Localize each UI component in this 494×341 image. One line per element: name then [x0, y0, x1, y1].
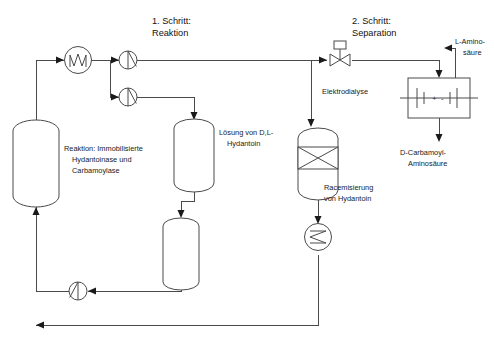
- pipe-reactor-to-exchanger: [36, 60, 64, 120]
- electrode-positive-symbol: +: [432, 94, 437, 103]
- step-1-heading-line1: 1. Schritt:: [152, 16, 191, 26]
- arrowhead-into-pump-middle: [111, 94, 119, 101]
- arrowhead-into-electrodialysis: [436, 70, 443, 78]
- racemization-label-line1: Racemisierung: [324, 183, 373, 192]
- heat-exchanger-feed[interactable]: [65, 47, 92, 74]
- step-2-heading-line2: Separation: [352, 28, 396, 38]
- arrowhead-into-pump-top: [111, 57, 119, 64]
- valve-actuator: [334, 41, 346, 49]
- electrode-negative-symbol: -: [441, 94, 444, 103]
- pump-middle[interactable]: [119, 88, 137, 106]
- arrowhead-into-reactor-bottom: [33, 207, 40, 215]
- reactor-label: Reaktion: Immobilisierte Hydantoinase un…: [64, 144, 143, 175]
- arrowhead-out-l-amino-acid: [444, 45, 452, 52]
- solution-tank-label-line2: Hydantoin: [227, 139, 260, 148]
- reactor-vessel[interactable]: [13, 120, 59, 207]
- pipe-branch-to-pump-middle: [110, 60, 119, 97]
- arrowhead-into-exchanger: [56, 57, 64, 64]
- valve-body-left: [330, 54, 340, 66]
- pipe-pump-middle-to-solution-tank: [137, 97, 194, 118]
- arrowhead-into-holding-tank: [178, 210, 185, 218]
- electrodialysis-cell[interactable]: + -: [400, 78, 478, 118]
- arrowhead-into-recycle-pump: [88, 288, 96, 295]
- cooler[interactable]: [305, 224, 332, 251]
- electrodialysis-label: Elektrodialyse: [322, 87, 368, 96]
- holding-tank[interactable]: [163, 218, 199, 290]
- flow-canvas: + - 1. Schritt: Reaktion 2. Schritt: Sep…: [0, 0, 494, 341]
- arrowhead-out-d-carbamoyl: [436, 134, 443, 142]
- pump-recycle[interactable]: [69, 282, 87, 300]
- d-carbamoyl-label: D-Carbamoyl- Aminosäure: [400, 148, 447, 168]
- solution-tank-label: Lösung von D,L- Hydantoin: [219, 128, 274, 148]
- solution-tank-body: [174, 119, 214, 192]
- d-carbamoyl-label-line1: D-Carbamoyl-: [400, 148, 447, 157]
- valve-body-right: [340, 54, 350, 66]
- process-flow-diagram: + - 1. Schritt: Reaktion 2. Schritt: Sep…: [0, 0, 494, 341]
- flow-arrowheads: [33, 45, 453, 329]
- solution-tank-label-line1: Lösung von D,L-: [219, 128, 274, 137]
- pipe-holding-tank-to-recycle-pump: [88, 290, 181, 291]
- pipe-valve-to-electrodialysis: [352, 60, 439, 76]
- step-2-heading: 2. Schritt: Separation: [352, 16, 396, 38]
- pipe-recycle-pump-to-reactor: [36, 207, 69, 291]
- l-amino-acid-label-line2: säure: [463, 48, 482, 57]
- reactor-label-line2: Hydantoinase und: [72, 155, 132, 164]
- pump-top[interactable]: [119, 51, 137, 69]
- l-amino-acid-label-line1: L-Amino-: [455, 37, 486, 46]
- reactor-vessel-body: [13, 120, 59, 207]
- step-1-heading: 1. Schritt: Reaktion: [152, 16, 191, 38]
- arrowhead-into-valve: [319, 57, 327, 64]
- l-amino-acid-label: L-Amino- säure: [455, 37, 486, 57]
- holding-tank-body: [163, 218, 199, 290]
- arrowhead-into-cooler: [315, 216, 322, 224]
- step-1-heading-line2: Reaktion: [152, 28, 188, 38]
- piping-network: [36, 48, 455, 325]
- solution-tank[interactable]: [174, 119, 214, 192]
- control-valve[interactable]: [330, 41, 350, 66]
- reactor-label-line1: Reaktion: Immobilisierte: [64, 144, 143, 153]
- arrowhead-return-left: [36, 322, 44, 329]
- arrowhead-into-racemization-column: [308, 119, 315, 127]
- racemization-label-line2: von Hydantoin: [324, 194, 371, 203]
- heat-exchanger-body: [65, 47, 92, 74]
- d-carbamoyl-label-line2: Aminosäure: [408, 159, 447, 168]
- reactor-label-line3: Carbamoylase: [72, 166, 120, 175]
- step-2-heading-line1: 2. Schritt:: [352, 16, 391, 26]
- cooler-body: [305, 224, 332, 251]
